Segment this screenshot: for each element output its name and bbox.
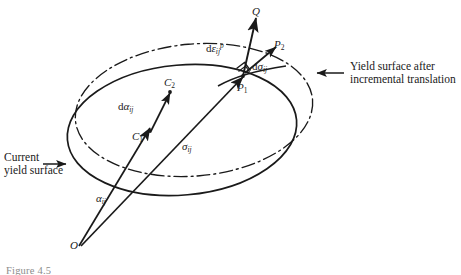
callout-current-line1: Current (4, 151, 39, 163)
callout-translated-line1: Yield surface after (350, 60, 435, 72)
label-normal-tip: Q (252, 5, 260, 17)
label-center-initial: C1 (132, 130, 143, 144)
stress-vector-line (81, 77, 243, 246)
backstress-vector-line (79, 128, 150, 246)
callout-current-line2: yield surface (4, 164, 63, 176)
label-stress-point-new: P2 (274, 38, 284, 52)
figure-caption: Figure 4.5 (6, 265, 51, 275)
label-backstress-increment: dαij (118, 100, 133, 114)
label-center-final: C2 (164, 76, 175, 90)
diagram-svg (0, 0, 461, 275)
center-initial-dot (148, 129, 152, 133)
figure-canvas: Current yield surface Yield surface afte… (0, 0, 461, 275)
backstress-increment-vector-line (151, 93, 170, 131)
label-stress-point: P1 (237, 81, 247, 95)
center-final-dot (168, 90, 172, 94)
callout-translated-line2: incremental translation (350, 73, 456, 85)
label-stress-vector: σij (182, 140, 192, 154)
label-stress-increment: dσij (252, 60, 267, 74)
callout-translated-yield-surface: Yield surface after incremental translat… (350, 60, 456, 86)
callout-current-yield-surface: Current yield surface (4, 151, 63, 177)
label-plastic-strain-increment: dεijp (206, 42, 224, 56)
label-origin: O (70, 239, 78, 251)
label-backstress-vector: αij (96, 192, 106, 206)
translated-yield-surface-ellipse (70, 34, 319, 186)
